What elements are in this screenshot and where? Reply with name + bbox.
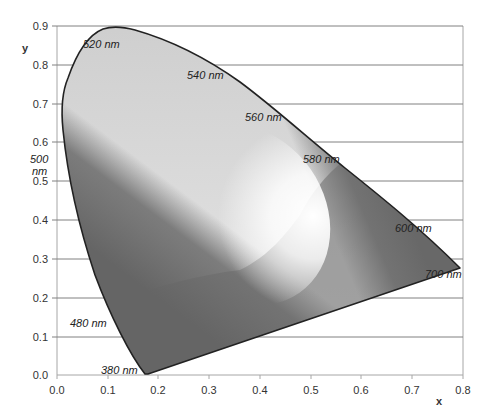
label-480nm: 480 nm: [70, 317, 107, 329]
svg-text:0.3: 0.3: [201, 384, 216, 396]
label-520nm: 520 nm: [83, 38, 120, 50]
svg-text:0.8: 0.8: [455, 384, 470, 396]
x-axis-title: x: [436, 395, 443, 407]
label-700nm: 700 nm: [425, 268, 462, 280]
label-560nm: 560 nm: [245, 111, 282, 123]
svg-text:0.5: 0.5: [303, 384, 318, 396]
label-500nm-unit: nm: [32, 165, 47, 177]
svg-text:0.7: 0.7: [33, 98, 48, 110]
svg-text:0.9: 0.9: [33, 20, 48, 32]
label-380nm: 380 nm: [101, 364, 138, 376]
svg-text:0.7: 0.7: [404, 384, 419, 396]
svg-text:0.1: 0.1: [100, 384, 115, 396]
svg-text:0.6: 0.6: [33, 136, 48, 148]
label-500nm-number: 500: [30, 153, 49, 165]
svg-text:0.4: 0.4: [33, 214, 48, 226]
svg-text:0.0: 0.0: [33, 369, 48, 381]
chromaticity-chart: 0.0 0.1 0.2 0.3 0.4 0.5 0.6 0.7 0.8 0.9 …: [0, 0, 495, 420]
svg-text:0.6: 0.6: [353, 384, 368, 396]
svg-text:0.3: 0.3: [33, 253, 48, 265]
svg-text:0.2: 0.2: [33, 292, 48, 304]
y-tick-labels: 0.0 0.1 0.2 0.3 0.4 0.5 0.6 0.7 0.8 0.9: [33, 20, 48, 381]
label-600nm: 600 nm: [395, 222, 432, 234]
y-axis-title: y: [22, 42, 29, 54]
x-tick-labels: 0.0 0.1 0.2 0.3 0.4 0.5 0.6 0.7 0.8: [49, 384, 470, 396]
label-540nm: 540 nm: [187, 69, 224, 81]
svg-text:0.8: 0.8: [33, 59, 48, 71]
svg-text:0.2: 0.2: [150, 384, 165, 396]
svg-text:0.0: 0.0: [49, 384, 64, 396]
svg-text:0.1: 0.1: [33, 331, 48, 343]
label-580nm: 580 nm: [303, 153, 340, 165]
svg-text:0.4: 0.4: [252, 384, 267, 396]
